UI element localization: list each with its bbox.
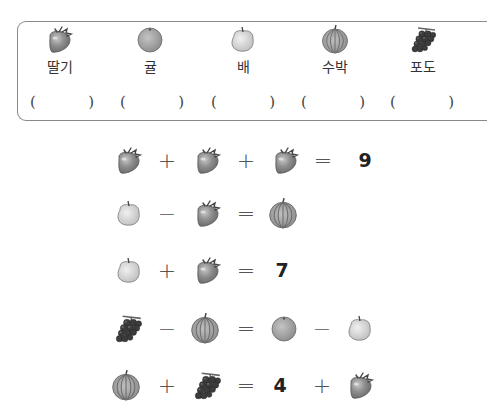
watermelon-icon	[110, 367, 142, 403]
minus-operator: −	[155, 310, 179, 346]
paren-open: (	[120, 93, 126, 111]
equals-operator: =	[234, 252, 258, 288]
equation-row-1: + + = 9	[0, 142, 462, 178]
equals-operator: =	[311, 142, 335, 178]
equals-operator: =	[234, 367, 258, 403]
legend-item-grapes: 포도	[383, 24, 463, 76]
tangerine-icon	[135, 24, 165, 54]
plus-operator: +	[310, 367, 334, 403]
pear-icon	[228, 24, 258, 54]
result-number: 4	[268, 367, 292, 403]
plus-operator: +	[155, 252, 179, 288]
answer-blank-strawberry[interactable]: ( )	[22, 93, 102, 115]
legend-item-watermelon: 수박	[295, 24, 375, 76]
result-number: 7	[270, 252, 294, 288]
legend-label: 배	[203, 58, 283, 76]
equals-operator: =	[234, 195, 258, 231]
paren-close: )	[178, 93, 184, 111]
grapes-icon	[408, 24, 438, 54]
tangerine-icon	[268, 310, 300, 346]
plus-operator: +	[155, 367, 179, 403]
paren-open: (	[30, 93, 36, 111]
answer-value[interactable]	[132, 93, 172, 113]
paren-close: )	[359, 93, 365, 111]
legend-label: 수박	[295, 58, 375, 76]
answer-blank-grapes[interactable]: ( )	[382, 93, 462, 115]
answer-value[interactable]	[223, 93, 263, 113]
paren-open: (	[211, 93, 217, 111]
legend-label: 딸기	[20, 58, 100, 76]
answer-value[interactable]	[42, 93, 82, 113]
equation-row-4: − = −	[0, 310, 462, 346]
equation-row-2: − =	[0, 195, 462, 231]
answer-blank-watermelon[interactable]: ( )	[293, 93, 373, 115]
paren-close: )	[448, 93, 454, 111]
legend-item-pear: 배	[203, 24, 283, 76]
equals-operator: =	[234, 310, 258, 346]
paren-open: (	[390, 93, 396, 111]
answer-blank-tangerine[interactable]: ( )	[112, 93, 192, 115]
pear-icon	[113, 252, 145, 288]
watermelon-icon	[267, 195, 299, 231]
watermelon-icon	[320, 24, 350, 54]
pear-icon	[113, 195, 145, 231]
equation-row-3: + = 7	[0, 252, 462, 288]
watermelon-icon	[189, 310, 221, 346]
strawberry-icon	[45, 24, 75, 54]
pear-icon	[344, 310, 376, 346]
minus-operator: −	[310, 310, 334, 346]
strawberry-icon	[192, 195, 224, 231]
equation-row-5: + = 4 +	[0, 367, 462, 403]
legend-item-strawberry: 딸기	[20, 24, 100, 76]
grapes-icon	[112, 310, 144, 346]
paren-open: (	[301, 93, 307, 111]
answer-blank-pear[interactable]: ( )	[203, 93, 283, 115]
legend-label: 포도	[383, 58, 463, 76]
strawberry-icon	[192, 142, 224, 178]
legend-label: 귤	[110, 58, 190, 76]
strawberry-icon	[113, 142, 145, 178]
legend-item-tangerine: 귤	[110, 24, 190, 76]
strawberry-icon	[192, 252, 224, 288]
answer-value[interactable]	[313, 93, 353, 113]
grapes-icon	[191, 367, 223, 403]
plus-operator: +	[234, 142, 258, 178]
paren-close: )	[269, 93, 275, 111]
paren-close: )	[88, 93, 94, 111]
strawberry-icon	[345, 367, 377, 403]
plus-operator: +	[155, 142, 179, 178]
answer-value[interactable]	[402, 93, 442, 113]
minus-operator: −	[155, 195, 179, 231]
result-number: 9	[353, 142, 377, 178]
strawberry-icon	[270, 142, 302, 178]
